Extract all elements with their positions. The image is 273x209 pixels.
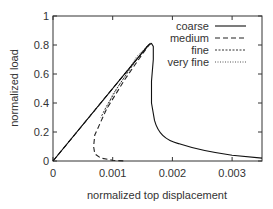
y-tick-label: 1 xyxy=(43,10,49,22)
y-tick-label: 0.6 xyxy=(34,68,49,80)
plot-frame xyxy=(53,16,262,161)
series-coarse xyxy=(53,44,262,162)
x-tick-label: 0.001 xyxy=(99,167,127,179)
legend-label-medium: medium xyxy=(170,32,209,44)
x-axis-label: normalized top displacement xyxy=(87,189,227,201)
y-tick-label: 0.2 xyxy=(34,126,49,138)
y-tick-label: 0.4 xyxy=(34,97,49,109)
legend: coarse medium fine very fine xyxy=(167,20,246,68)
x-tick-label: 0.002 xyxy=(159,167,187,179)
legend-label-coarse: coarse xyxy=(176,20,209,32)
y-axis-label: normalized load xyxy=(8,49,20,127)
y-tick-label: 0.8 xyxy=(34,39,49,51)
x-tick-label: 0 xyxy=(50,167,56,179)
legend-label-fine: fine xyxy=(191,44,209,56)
y-axis xyxy=(53,16,262,161)
x-tick-label: 0.003 xyxy=(218,167,246,179)
y-tick-label: 0 xyxy=(43,155,49,167)
legend-label-very-fine: very fine xyxy=(167,56,209,68)
chart-canvas: 0 0.2 0.4 0.6 0.8 1 0 0.001 0.002 0.003 … xyxy=(0,0,273,209)
